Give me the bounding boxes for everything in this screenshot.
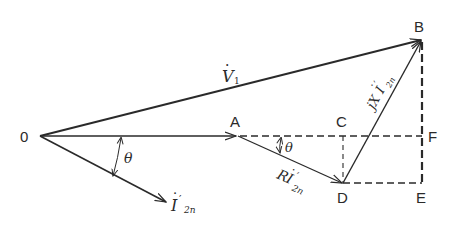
svg-text:2n: 2n [183, 205, 196, 215]
point-label-e: E [416, 189, 426, 206]
angle-arc-origin [113, 138, 121, 176]
point-label-d: D [337, 189, 348, 206]
label-jxi2n: jX · I ′ 2n [355, 68, 397, 116]
label-v1: · V 1 [222, 57, 240, 86]
vector-i2n [40, 136, 166, 202]
svg-text:1: 1 [234, 76, 240, 86]
svg-text:′: ′ [179, 193, 182, 206]
svg-text:2n: 2n [290, 183, 306, 197]
point-label-f: F [428, 128, 437, 145]
phasor-diagram-svg: 0 A B C D F E · V 1 θ θ · I ′ 2n R · I ′… [0, 0, 453, 228]
vector-jxi [343, 41, 421, 183]
label-theta-origin: θ [124, 150, 133, 166]
point-label-a: A [230, 113, 240, 130]
phasor-diagram: 0 A B C D F E · V 1 θ θ · I ′ 2n R · I ′… [0, 0, 453, 228]
point-label-o: 0 [20, 128, 28, 145]
label-i2n: · I ′ 2n [170, 186, 196, 215]
svg-text:jX: jX [362, 92, 383, 114]
angle-arc-a [280, 138, 281, 153]
point-label-c: C [336, 113, 347, 130]
label-ri2n: R · I ′ 2n [272, 158, 312, 196]
svg-text:I: I [170, 196, 178, 215]
label-theta-a: θ [285, 140, 293, 155]
point-label-b: B [414, 18, 424, 35]
